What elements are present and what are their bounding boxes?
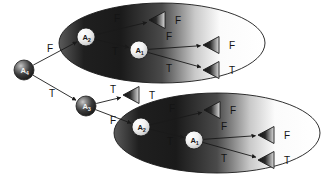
edge-label-B2A1-T: T (221, 153, 227, 164)
edge-label-T2A2-F: F (114, 13, 120, 24)
edge-label-B2A2-F: F (169, 103, 175, 114)
leaf-label-L7: T (284, 155, 290, 166)
edge-label-T2A2-T: T (112, 46, 118, 57)
edge-label-T2A1-F: F (166, 31, 172, 42)
edge-label-B2A1-F: F (221, 121, 227, 132)
edge-label-T2A1-T: T (166, 63, 172, 74)
edge-label-B2A2-T: T (167, 136, 173, 147)
edge-A3-to-L4 (96, 97, 121, 103)
leaf-label-L1: F (175, 15, 181, 26)
diagram-canvas: A4A3A2A1A2A1 FTFTFTTFFTFT FFTTFFT (0, 0, 327, 183)
edge-label-A4-T: T (49, 88, 55, 99)
edge-label-A3-F: F (110, 115, 116, 126)
leaf-label-L4: T (149, 90, 155, 101)
decision-diagram-svg: A4A3A2A1A2A1 FTFTFTTFFTFT FFTTFFT (0, 0, 327, 183)
edge-label-A3-T: T (110, 84, 116, 95)
leaf-label-L3: T (229, 65, 235, 76)
leaf-triangle-L4 (123, 87, 139, 104)
leaf-label-L2: F (229, 40, 235, 51)
leaf-label-L6: F (284, 130, 290, 141)
edge-label-A4-F: F (47, 43, 53, 54)
leaf-label-L5: F (230, 105, 236, 116)
